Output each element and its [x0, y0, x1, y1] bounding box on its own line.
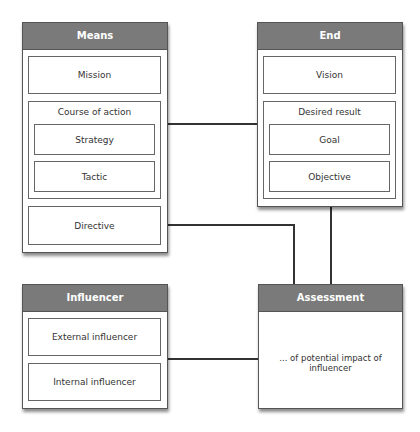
mission-box[interactable]: Mission — [28, 56, 161, 94]
vision-box[interactable]: Vision — [263, 56, 396, 94]
external-influencer-box[interactable]: External influencer — [28, 318, 161, 356]
assessment-header: Assessment — [259, 285, 402, 312]
end-header: End — [258, 23, 402, 50]
desired-result-label: Desired result — [264, 102, 395, 117]
goal-label: Goal — [270, 135, 389, 145]
end-group[interactable]: End Vision Desired result Goal Objective — [257, 22, 403, 207]
connector-course-of-action-to-desired-result — [167, 123, 257, 125]
tactic-box[interactable]: Tactic — [34, 161, 155, 192]
desired-result-box[interactable]: Desired result Goal Objective — [263, 101, 396, 199]
course-of-action-box[interactable]: Course of action Strategy Tactic — [28, 101, 161, 199]
mission-label: Mission — [29, 70, 160, 80]
directive-box[interactable]: Directive — [28, 206, 161, 245]
external-influencer-label: External influencer — [29, 332, 160, 342]
strategy-label: Strategy — [35, 135, 154, 145]
course-of-action-label: Course of action — [29, 102, 160, 117]
assessment-description: ... of potential impact of influencer — [259, 353, 402, 373]
objective-label: Objective — [270, 172, 389, 182]
connector-directive-vertical — [293, 224, 295, 284]
goal-box[interactable]: Goal — [269, 124, 390, 155]
vision-label: Vision — [264, 70, 395, 80]
tactic-label: Tactic — [35, 172, 154, 182]
connector-directive-horizontal — [167, 224, 294, 226]
directive-label: Directive — [29, 221, 160, 231]
connector-influencer-to-assessment — [167, 358, 258, 360]
internal-influencer-box[interactable]: Internal influencer — [28, 363, 161, 401]
influencer-header: Influencer — [23, 285, 167, 312]
influencer-group[interactable]: Influencer External influencer Internal … — [22, 284, 168, 409]
means-group[interactable]: Means Mission Course of action Strategy … — [22, 22, 168, 253]
connector-end-to-assessment — [330, 205, 332, 284]
strategy-box[interactable]: Strategy — [34, 124, 155, 155]
objective-box[interactable]: Objective — [269, 161, 390, 192]
internal-influencer-label: Internal influencer — [29, 377, 160, 387]
assessment-group[interactable]: Assessment ... of potential impact of in… — [258, 284, 403, 409]
means-header: Means — [23, 23, 167, 50]
